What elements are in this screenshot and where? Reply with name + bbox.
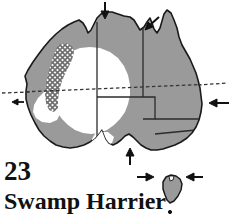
- arrow-east-coast-inbound: [209, 99, 229, 107]
- species-name: Swamp Harrier: [4, 188, 204, 214]
- species-distribution-figure: 23 Swamp Harrier: [0, 0, 232, 224]
- arid-interior-south-extension: [92, 132, 114, 148]
- tropic-line-east-extension: [198, 83, 228, 85]
- arrow-west-coast-outbound: [12, 99, 24, 105]
- figure-caption: 23 Swamp Harrier: [4, 158, 204, 214]
- plate-number: 23: [4, 158, 204, 185]
